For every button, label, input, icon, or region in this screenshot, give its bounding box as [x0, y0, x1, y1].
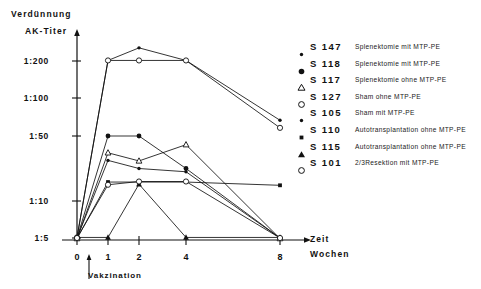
data-point-2: [137, 46, 140, 49]
data-point-2: [136, 58, 141, 63]
chart-figure: Verdünnung AK-Titer Zeit Wochen Vakzinat…: [0, 0, 481, 289]
data-point-1: [106, 159, 109, 162]
legend-item-s-127[interactable]: S 127Sham ohne MTP-PE: [297, 91, 479, 108]
legend-item-description: Splenektomie mit MTP-PE: [355, 60, 440, 67]
legend-item-s-105[interactable]: S 105Sham mit MTP-PE: [297, 107, 479, 124]
series-s-127: [74, 58, 282, 240]
series-line: [77, 145, 280, 239]
legend-item-code: S 110: [310, 124, 341, 135]
legend-item-code: S 115: [310, 141, 341, 152]
data-point-2: [137, 167, 140, 170]
data-point-1: [105, 234, 111, 239]
legend-item-description: Sham ohne MTP-PE: [355, 93, 421, 100]
series-s-118: [75, 134, 283, 241]
series-s-117: [74, 142, 283, 241]
legend-item-description: Autotransplantation ohne MTP-PE: [355, 143, 466, 150]
data-point-2: [137, 134, 142, 139]
legend-item-code: S 117: [310, 74, 341, 85]
filled-dot-icon: [297, 62, 306, 71]
data-point-1: [105, 182, 110, 187]
series-line: [77, 184, 280, 237]
legend-item-code: S 105: [310, 107, 342, 118]
legend-item-s-147[interactable]: S 147Splenektomie mit MTP-PE: [297, 41, 479, 58]
data-point-4: [277, 235, 282, 240]
legend-item-s-115[interactable]: S 115Autotransplantation ohne MTP-PE: [297, 141, 479, 158]
data-point-2: [136, 179, 141, 184]
data-series-layer: [74, 46, 283, 241]
y-axis-arrow: [74, 29, 80, 36]
legend-item-code: S 101: [310, 157, 342, 168]
series-s-110: [75, 180, 282, 240]
x-axis-arrow: [304, 237, 311, 243]
small-filled-dot-icon: [297, 45, 306, 54]
legend-item-description: Splenektomie mit MTP-PE: [355, 43, 440, 50]
series-line: [77, 48, 280, 238]
legend: S 147Splenektomie mit MTP-PES 118Splenek…: [297, 41, 479, 174]
data-point-4: [278, 183, 282, 187]
data-point-3: [184, 170, 187, 173]
data-point-4: [277, 125, 282, 130]
filled-triangle-icon: [297, 145, 306, 154]
data-point-3: [183, 179, 188, 184]
small-filled-square-icon: [297, 128, 306, 137]
data-point-3: [183, 142, 189, 147]
data-point-1: [106, 134, 111, 139]
legend-item-s-117[interactable]: S 117Splenektomie ohne MTP-PE: [297, 74, 479, 91]
open-circle-icon: [297, 95, 306, 104]
legend-item-code: S 118: [310, 58, 341, 69]
legend-item-description: Splenektomie ohne MTP-PE: [355, 76, 447, 83]
legend-item-description: Sham mit MTP-PE: [355, 109, 415, 116]
open-circle-icon: [297, 161, 306, 170]
series-line: [77, 160, 280, 238]
data-point-3: [183, 58, 188, 63]
data-point-0: [74, 235, 79, 240]
legend-item-description: Autotransplantation ohne MTP-PE: [355, 126, 466, 133]
legend-item-s-118[interactable]: S 118Splenektomie mit MTP-PE: [297, 58, 479, 75]
vaccination-arrow-head: [87, 254, 92, 260]
legend-item-code: S 147: [310, 41, 342, 52]
series-line: [77, 182, 280, 239]
legend-item-s-110[interactable]: S 110Autotransplantation ohne MTP-PE: [297, 124, 479, 141]
series-s-105: [75, 159, 281, 240]
legend-item-code: S 127: [310, 91, 342, 102]
series-line: [77, 60, 280, 237]
legend-item-s-101[interactable]: S 1012/3Resektion mit MTP-PE: [297, 157, 479, 174]
legend-item-description: 2/3Resektion mit MTP-PE: [355, 159, 439, 166]
data-point-4: [278, 119, 281, 122]
data-point-1: [105, 150, 111, 155]
small-filled-dot-icon: [297, 111, 306, 120]
data-point-1: [105, 58, 110, 63]
open-triangle-icon: [297, 78, 306, 87]
